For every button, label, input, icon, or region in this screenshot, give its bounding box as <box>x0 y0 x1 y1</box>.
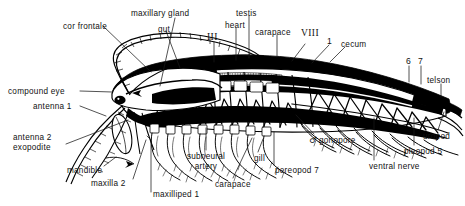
label-pereopod-7: pereopod 7 <box>275 166 319 176</box>
leader-compound-eye <box>80 91 112 92</box>
label-mandible: mandible <box>67 166 102 176</box>
compound-eye-shape <box>114 96 125 105</box>
label-cor-frontale: cor frontale <box>63 22 107 32</box>
label-gill: gill <box>254 154 265 164</box>
eye-highlight <box>117 98 119 100</box>
figure-canvas: cor frontale maxillary gland gut III hea… <box>0 0 465 206</box>
label-maxilla-2: maxilla 2 <box>91 179 126 189</box>
label-maxillary-gland: maxillary gland <box>131 9 189 19</box>
label-ventral-nerve: ventral nerve <box>369 162 420 172</box>
leader-maxilla-2 <box>133 140 146 179</box>
label-segment-1: 1 <box>327 37 332 47</box>
label-pleomere-7: 7 <box>418 57 423 67</box>
label-gonopore-text: gonopore <box>319 136 356 145</box>
leader-segment-one <box>312 45 329 63</box>
label-carapace-top: carapace <box>255 28 291 38</box>
label-uropod: uropod <box>423 132 450 142</box>
label-carapace-bottom: carapace <box>215 180 251 190</box>
label-antenna-1: antenna 1 <box>33 102 72 112</box>
label-subneural-artery: subneuralartery <box>176 152 236 171</box>
label-pleopod-5: pleopod 5 <box>404 147 442 157</box>
label-segment-VIII: VIII <box>301 29 319 39</box>
label-maxilliped-1: maxilliped 1 <box>153 190 199 200</box>
label-heart: heart <box>225 21 245 31</box>
label-testis: testis <box>236 9 257 19</box>
label-telson: telson <box>427 76 450 86</box>
leader-gill <box>258 139 263 152</box>
label-antenna-2-line1: antenna 2exopodite <box>13 133 52 152</box>
label-segment-III: III <box>207 33 218 43</box>
label-compound-eye: compound eye <box>8 87 65 97</box>
mandible-arrow <box>125 161 134 168</box>
label-cecum: cecum <box>341 40 366 50</box>
leader-antenna-1 <box>80 106 106 116</box>
label-antenna-2-exopodite: antenna 2exopodite <box>13 133 71 152</box>
leader-maxilliped-1 <box>147 136 151 192</box>
label-gonopore: ♂gonopore <box>309 136 356 146</box>
leader-cor-frontale <box>103 26 151 72</box>
label-gut: gut <box>158 25 170 35</box>
male-symbol-icon: ♂ <box>309 135 317 145</box>
label-subneural-text: subneuralartery <box>187 152 225 171</box>
label-pleomere-6: 6 <box>406 57 411 67</box>
